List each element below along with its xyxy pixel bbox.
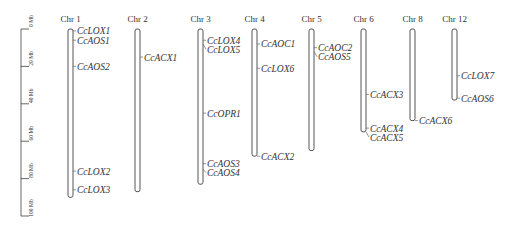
- chromosome-chr-12: Chr 12CcLOX7CcAOS6: [442, 14, 495, 104]
- chromosome-chr-3: Chr 3CcLOX4CcLOX5CcOPR1CcAOS3CcAOS4: [190, 14, 240, 184]
- chromosome-bar: [309, 29, 314, 151]
- gene-label: CcLOX6: [261, 64, 295, 74]
- chromosome-bar: [452, 29, 457, 100]
- scale-tick-label: 100 Mb: [28, 199, 34, 217]
- chromosome-label: Chr 12: [442, 14, 467, 24]
- chromosomes: Chr 1CcLOX1CcAOS1CcAOS2CcLOX2CcLOX3Chr 2…: [60, 14, 495, 197]
- chromosome-label: Chr 3: [190, 14, 211, 24]
- scale-tick-label: 60 Mb: [28, 126, 34, 141]
- scale-tick-label: 20 Mb: [28, 51, 34, 66]
- gene-label: CcLOX5: [207, 45, 241, 55]
- gene-label: CcACX6: [419, 116, 452, 126]
- chromosome-chr-8: Chr 8CcACX6: [402, 14, 452, 126]
- chromosome-chr-1: Chr 1CcLOX1CcAOS1CcAOS2CcLOX2CcLOX3: [60, 14, 110, 197]
- scale-tick-label: 40 Mb: [28, 88, 34, 103]
- gene-label: CcOPR1: [207, 109, 241, 119]
- chromosome-chr-4: Chr 4CcAOC1CcLOX6CcACX2: [244, 14, 295, 162]
- chromosome-chr-2: Chr 2CcACX1: [127, 14, 177, 192]
- gene-label: CcLOX2: [77, 167, 111, 177]
- chromosome-bar: [68, 29, 73, 197]
- chromosome-label: Chr 4: [244, 14, 265, 24]
- gene-label: CcLOX7: [461, 71, 496, 81]
- gene-label: CcAOS1: [77, 36, 110, 46]
- chromosome-label: Chr 6: [353, 14, 374, 24]
- chromosome-map-svg: 0 Mb20 Mb40 Mb60 Mb80 Mb100 Mb Chr 1CcLO…: [0, 0, 505, 231]
- chromosome-label: Chr 1: [60, 14, 80, 24]
- gene-label: CcAOS4: [207, 168, 240, 178]
- scale-tick-label: 0 Mb: [28, 15, 34, 27]
- chromosome-bar: [410, 29, 415, 121]
- gene-label: CcAOS6: [461, 94, 494, 104]
- chromosome-bar: [361, 29, 366, 132]
- chromosome-label: Chr 5: [301, 14, 322, 24]
- gene-label: CcAOC1: [261, 39, 295, 49]
- scale-bar: 0 Mb20 Mb40 Mb60 Mb80 Mb100 Mb: [21, 15, 34, 217]
- chromosome-bar: [252, 29, 257, 156]
- chromosome-map: 0 Mb20 Mb40 Mb60 Mb80 Mb100 Mb Chr 1CcLO…: [0, 0, 505, 231]
- gene-label: CcACX3: [370, 90, 403, 100]
- chromosome-chr-6: Chr 6CcACX3CcACX4CcACX5: [353, 14, 403, 143]
- chromosome-bar: [135, 29, 140, 192]
- gene-label: CcLOX3: [77, 185, 111, 195]
- chromosome-bar: [198, 29, 203, 184]
- chromosome-label: Chr 8: [402, 14, 423, 24]
- gene-label: CcAOS5: [318, 52, 351, 62]
- gene-marker-line: [366, 132, 369, 137]
- gene-label: CcACX2: [261, 152, 294, 162]
- scale-tick-label: 80 Mb: [28, 163, 34, 178]
- gene-label: CcACX1: [144, 53, 177, 63]
- gene-label: CcAOS2: [77, 62, 110, 72]
- chromosome-label: Chr 2: [127, 14, 147, 24]
- gene-label: CcACX5: [370, 133, 403, 143]
- chromosome-chr-5: Chr 5CcAOC2CcAOS5: [301, 14, 352, 151]
